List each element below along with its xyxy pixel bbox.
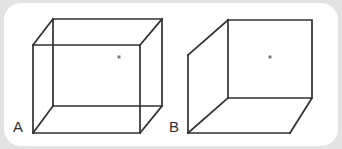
cube-a-front-face [33,45,140,133]
cube-a-back-face [53,19,162,106]
cube-b-edge-top-left [188,20,228,55]
cube-b-dot [269,56,272,59]
cube-a-label: A [13,119,23,134]
cube-a-edge-top-left [33,19,53,45]
cube-a-edge-top-right [140,19,162,45]
cube-b-label: B [169,119,179,134]
cube-b-edge-bottom-left-diagonal [188,98,228,133]
figure-canvas: A B [0,0,342,149]
cube-b [188,20,312,133]
cube-a [33,19,162,133]
cube-a-edge-bottom-left [33,106,53,133]
cube-b-edge-bottom-right [290,98,312,133]
cube-a-edge-bottom-right [140,106,162,133]
cube-a-dot [118,56,121,59]
cube-b-front-face [228,20,312,98]
